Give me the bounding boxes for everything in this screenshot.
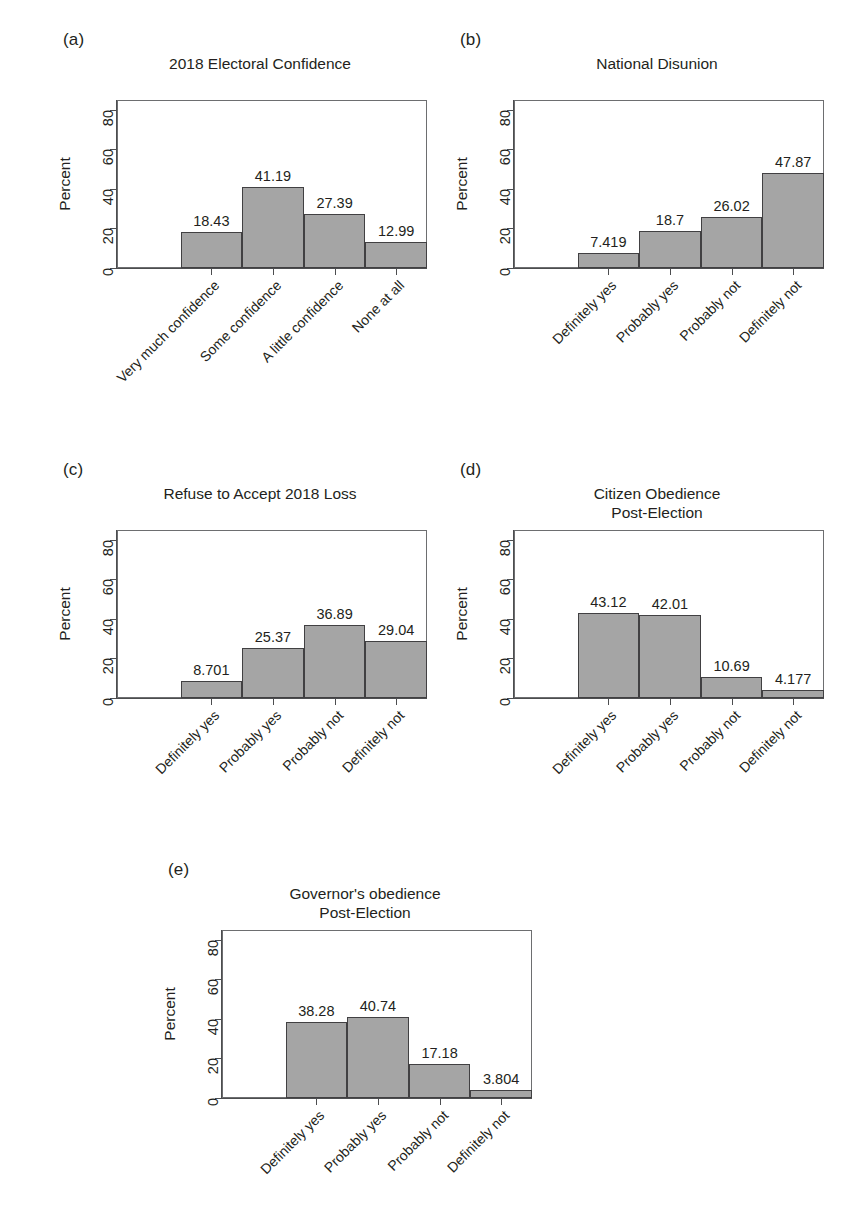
bar-value-label: 36.89 (316, 606, 352, 622)
bar: 26.02 (701, 217, 763, 268)
x-axis-tick (273, 268, 274, 275)
y-axis-line (221, 930, 222, 1098)
y-axis-title: Percent (453, 587, 471, 640)
x-axis-tick (608, 698, 609, 705)
y-axis-title: Percent (161, 987, 179, 1040)
plot-area: 020406080Percent8.701Definitely yes25.37… (117, 530, 427, 698)
bar: 7.419 (578, 253, 640, 268)
y-axis-title: Percent (56, 587, 74, 640)
bar-value-label: 29.04 (378, 622, 414, 638)
bar-value-label: 17.18 (421, 1045, 457, 1061)
y-axis-tick-label: 80 (205, 940, 221, 956)
panel-letter: (c) (63, 460, 83, 480)
chart-title: National Disunion (482, 54, 832, 73)
bar: 27.39 (304, 214, 366, 268)
bar: 17.18 (409, 1064, 471, 1098)
bar-value-label: 7.419 (590, 234, 626, 250)
y-axis-tick-label: 80 (100, 540, 116, 556)
bar-value-label: 38.28 (298, 1003, 334, 1019)
y-axis-tick-label: 20 (497, 228, 513, 244)
y-axis-title: Percent (56, 157, 74, 210)
x-axis-tick (793, 268, 794, 275)
y-axis-line (513, 100, 514, 268)
x-axis-tick (211, 698, 212, 705)
x-axis-tick (501, 1098, 502, 1105)
bar-value-label: 26.02 (713, 198, 749, 214)
bar-value-label: 25.37 (255, 629, 291, 645)
y-axis-tick-label: 40 (497, 619, 513, 635)
y-axis-tick-label: 60 (497, 149, 513, 165)
chart-title: Citizen Obedience Post-Election (482, 484, 832, 522)
bar-value-label: 10.69 (713, 658, 749, 674)
panel-letter: (d) (460, 460, 481, 480)
x-axis-tick (732, 698, 733, 705)
bar-value-label: 27.39 (316, 195, 352, 211)
bar: 18.43 (181, 232, 243, 268)
y-axis-title: Percent (453, 157, 471, 210)
panel-letter: (b) (460, 30, 481, 50)
bar-value-label: 41.19 (255, 168, 291, 184)
chart-panel-c: (c)Refuse to Accept 2018 Loss020406080Pe… (55, 458, 455, 848)
bar-value-label: 18.43 (193, 213, 229, 229)
bar-value-label: 12.99 (378, 223, 414, 239)
bar: 3.804 (470, 1090, 532, 1098)
x-axis-tick (335, 268, 336, 275)
bar: 18.7 (639, 231, 701, 268)
chart-panel-e: (e)Governor's obedience Post-Election020… (160, 858, 560, 1214)
chart-title: 2018 Electoral Confidence (85, 54, 435, 73)
bar: 10.69 (701, 677, 763, 698)
y-axis-tick-label: 20 (497, 658, 513, 674)
y-axis-tick-label: 0 (497, 698, 513, 706)
y-axis-tick-label: 80 (100, 110, 116, 126)
y-axis-line (116, 100, 117, 268)
bar: 36.89 (304, 625, 366, 698)
y-axis-tick-label: 60 (497, 579, 513, 595)
y-axis-tick-label: 80 (497, 540, 513, 556)
plot-area: 020406080Percent43.12Definitely yes42.01… (514, 530, 824, 698)
x-axis-tick (670, 698, 671, 705)
plot-area: 020406080Percent18.43Very much confidenc… (117, 100, 427, 268)
chart-panel-d: (d)Citizen Obedience Post-Election020406… (452, 458, 852, 848)
y-axis-tick-label: 0 (100, 698, 116, 706)
panel-letter: (e) (168, 860, 189, 880)
bar: 40.74 (347, 1017, 409, 1098)
chart-title: Refuse to Accept 2018 Loss (85, 484, 435, 503)
x-axis-tick (316, 1098, 317, 1105)
y-axis-tick-label: 20 (100, 658, 116, 674)
x-axis-tick (440, 1098, 441, 1105)
bar-value-label: 3.804 (483, 1071, 519, 1087)
bar: 12.99 (365, 242, 427, 268)
y-axis-tick-label: 60 (100, 579, 116, 595)
y-axis-tick-label: 40 (205, 1019, 221, 1035)
y-axis-tick-label: 60 (205, 979, 221, 995)
x-axis-tick (608, 268, 609, 275)
y-axis-tick-label: 40 (100, 189, 116, 205)
bar-value-label: 43.12 (590, 594, 626, 610)
page-header-artifact (300, 0, 600, 4)
y-axis-line (513, 530, 514, 698)
bar-value-label: 18.7 (656, 212, 684, 228)
bar-value-label: 47.87 (775, 154, 811, 170)
x-axis-tick (211, 268, 212, 275)
bar: 41.19 (242, 187, 304, 268)
y-axis-tick-label: 80 (497, 110, 513, 126)
x-axis-tick (396, 268, 397, 275)
chart-panel-b: (b)National Disunion020406080Percent7.41… (452, 28, 852, 418)
x-axis-tick (670, 268, 671, 275)
x-axis-tick (378, 1098, 379, 1105)
bar: 8.701 (181, 681, 243, 698)
panel-letter: (a) (63, 30, 84, 50)
x-axis-tick (396, 698, 397, 705)
x-axis-tick (273, 698, 274, 705)
y-axis-line (116, 530, 117, 698)
bar: 42.01 (639, 615, 701, 698)
bar-value-label: 42.01 (652, 596, 688, 612)
plot-area: 020406080Percent7.419Definitely yes18.7P… (514, 100, 824, 268)
chart-panel-a: (a)2018 Electoral Confidence020406080Per… (55, 28, 455, 418)
bar-value-label: 4.177 (775, 671, 811, 687)
bar: 25.37 (242, 648, 304, 698)
y-axis-tick-label: 0 (205, 1098, 221, 1106)
x-axis-tick (793, 698, 794, 705)
y-axis-tick-label: 20 (100, 228, 116, 244)
bar: 29.04 (365, 641, 427, 698)
